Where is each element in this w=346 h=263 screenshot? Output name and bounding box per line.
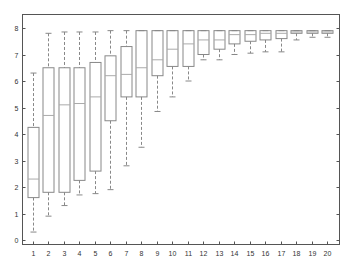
x-tick-label: 2 — [47, 250, 51, 257]
x-tick-label: 7 — [125, 250, 129, 257]
y-tick-label: 8 — [15, 25, 19, 32]
x-tick-label: 19 — [309, 250, 317, 257]
x-tick-label: 12 — [200, 250, 208, 257]
x-tick-label: 1 — [32, 250, 36, 257]
y-tick-label: 3 — [15, 158, 19, 165]
y-tick-label: 6 — [15, 78, 19, 85]
y-tick-label: 4 — [15, 131, 19, 138]
x-tick-label: 4 — [78, 250, 82, 257]
box-plot-chart: 012345678 123456789101112131415161718192… — [0, 0, 346, 263]
x-tick-label: 20 — [324, 250, 332, 257]
x-tick-label: 14 — [231, 250, 239, 257]
x-tick-label: 17 — [278, 250, 286, 257]
x-tick-label: 13 — [216, 250, 224, 257]
y-tick-label: 0 — [15, 237, 19, 244]
y-tick-label: 5 — [15, 105, 19, 112]
x-tick-label: 16 — [262, 250, 270, 257]
x-tick-label: 6 — [109, 250, 113, 257]
x-tick-label: 11 — [185, 250, 192, 257]
x-tick-label: 10 — [169, 250, 177, 257]
y-tick-label: 7 — [15, 52, 19, 59]
x-tick-label: 18 — [293, 250, 301, 257]
x-tick-label: 5 — [94, 250, 98, 257]
x-tick-label: 8 — [140, 250, 144, 257]
x-tick-label: 3 — [63, 250, 67, 257]
x-tick-label: 15 — [247, 250, 255, 257]
x-tick-label: 9 — [156, 250, 160, 257]
y-tick-label: 2 — [15, 184, 19, 191]
y-tick-label: 1 — [15, 211, 19, 218]
